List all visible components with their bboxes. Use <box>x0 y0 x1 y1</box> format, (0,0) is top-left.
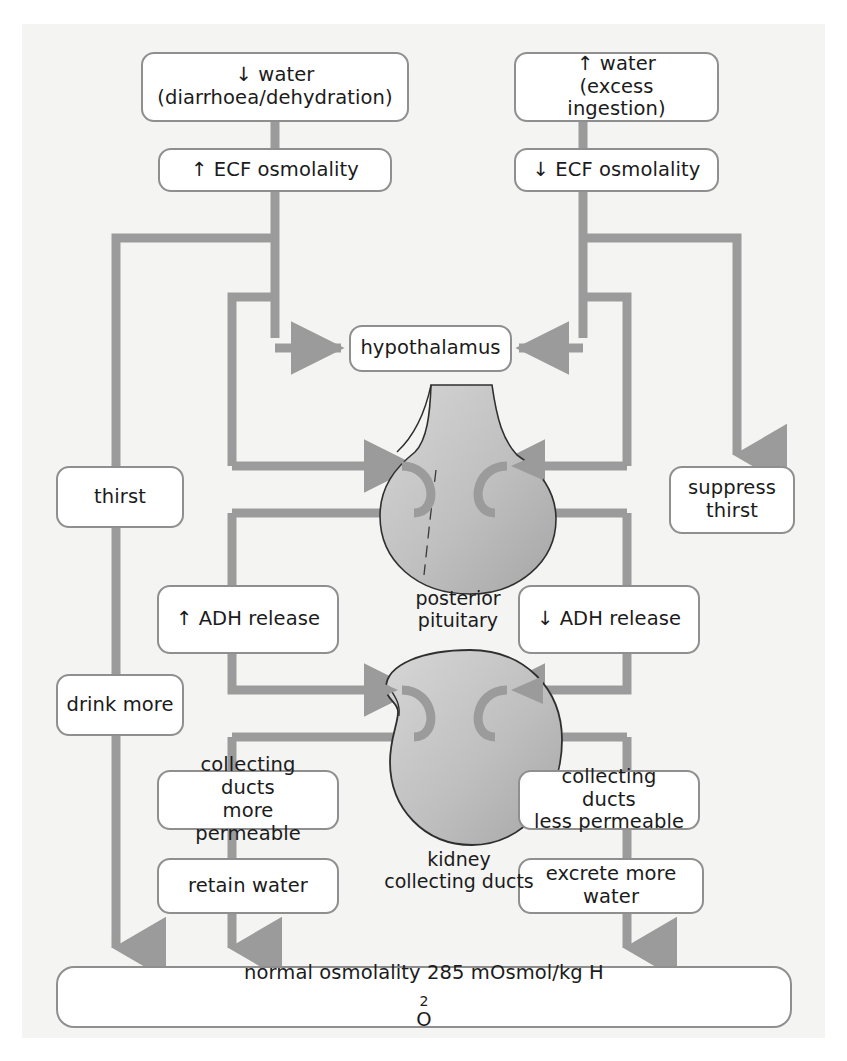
node-water-decrease[interactable]: ↓ water (diarrhoea/dehydration) <box>141 52 409 122</box>
node-retain-water-label: retain water <box>182 875 314 898</box>
label-posterior-pituitary: posterior pituitary <box>378 587 538 631</box>
node-suppress-thirst-line1: suppress <box>682 477 782 500</box>
node-thirst[interactable]: thirst <box>56 466 184 528</box>
node-drink-more-label: drink more <box>60 694 179 717</box>
pituitary-caption-line1: posterior <box>378 587 538 609</box>
node-normal-osmolality[interactable]: normal osmolality 285 mOsmol/kg H2O <box>56 966 792 1028</box>
node-adh-release-decrease[interactable]: ↓ ADH release <box>518 585 700 654</box>
normal-osmolality-text: normal osmolality 285 mOsmol/kg H <box>238 962 610 985</box>
node-retain-water[interactable]: retain water <box>157 858 339 914</box>
node-water-increase-line2: (excess ingestion) <box>522 76 711 122</box>
node-adh-increase-label: ↑ ADH release <box>170 608 326 631</box>
node-drink-more[interactable]: drink more <box>56 674 184 736</box>
node-ecf-increase-label: ↑ ECF osmolality <box>185 159 365 182</box>
label-kidney-collecting-ducts: kidney collecting ducts <box>349 848 569 892</box>
node-ecf-decrease-label: ↓ ECF osmolality <box>527 159 707 182</box>
node-ecf-osmolality-decrease[interactable]: ↓ ECF osmolality <box>514 148 719 192</box>
node-water-increase[interactable]: ↑ water (excess ingestion) <box>514 52 719 122</box>
node-collecting-ducts-more-permeable[interactable]: collecting ducts more permeable <box>157 770 339 830</box>
node-water-decrease-line1: ↓ water <box>151 64 398 87</box>
node-collecting-ducts-less-permeable[interactable]: collecting ducts less permeable <box>518 770 700 830</box>
ducts-less-line1: collecting ducts <box>526 766 692 812</box>
ducts-less-line2: less permeable <box>526 811 692 834</box>
node-water-decrease-line2: (diarrhoea/dehydration) <box>151 87 398 110</box>
ducts-more-line1: collecting ducts <box>165 754 331 800</box>
node-hypothalamus-label: hypothalamus <box>354 337 506 360</box>
normal-osmolality-subscript: 2 <box>419 993 428 1009</box>
ducts-more-line2: more permeable <box>165 800 331 846</box>
node-hypothalamus[interactable]: hypothalamus <box>349 325 512 372</box>
node-adh-release-increase[interactable]: ↑ ADH release <box>157 585 339 654</box>
diagram-canvas: ↓ water (diarrhoea/dehydration) ↑ water … <box>0 0 847 1061</box>
kidney-caption-line2: collecting ducts <box>349 870 569 892</box>
node-ecf-osmolality-increase[interactable]: ↑ ECF osmolality <box>158 148 392 192</box>
node-suppress-thirst[interactable]: suppress thirst <box>669 466 795 534</box>
node-water-increase-line1: ↑ water <box>522 53 711 76</box>
pituitary-caption-line2: pituitary <box>378 609 538 631</box>
node-suppress-thirst-line2: thirst <box>682 500 782 523</box>
node-adh-decrease-label: ↓ ADH release <box>531 608 687 631</box>
normal-osmolality-suffix: O <box>238 1009 610 1032</box>
kidney-caption-line1: kidney <box>349 848 569 870</box>
node-thirst-label: thirst <box>88 486 152 509</box>
